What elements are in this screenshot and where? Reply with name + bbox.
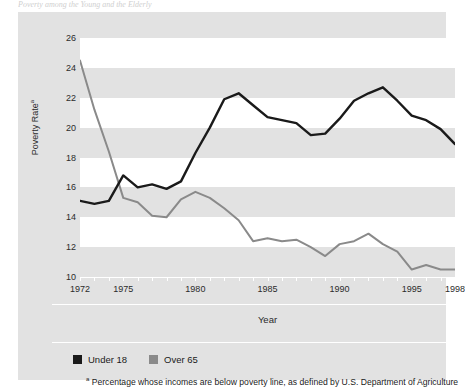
line-over-65 (80, 60, 455, 269)
chart-panel: 101214161820222426 Poverty Ratea 1972197… (18, 12, 446, 380)
series-lines (80, 38, 455, 277)
x-tick (152, 278, 153, 281)
x-tick (138, 278, 139, 281)
x-tick (224, 278, 225, 281)
plot-area (80, 38, 455, 277)
x-tick-label: 1998 (445, 284, 465, 294)
y-tick-label: 20 (54, 124, 76, 133)
x-tick (311, 278, 312, 281)
legend-swatch-gray (149, 355, 158, 364)
x-tick (383, 278, 384, 281)
x-tick (455, 278, 456, 281)
divider-lower (52, 342, 452, 343)
chart-legend: Under 18Over 65 (73, 353, 220, 365)
legend-label: Under 18 (88, 354, 127, 365)
x-tick (80, 278, 81, 281)
x-tick (167, 278, 168, 281)
y-axis-tick-labels: 101214161820222426 (48, 38, 76, 277)
y-tick-label: 18 (54, 154, 76, 163)
x-tick (441, 278, 442, 281)
y-tick-label: 12 (54, 243, 76, 252)
y-tick-label: 26 (54, 34, 76, 43)
y-tick-label: 14 (54, 213, 76, 222)
x-tick-label: 1995 (402, 284, 422, 294)
legend-swatch-dark (73, 355, 82, 364)
x-tick (282, 278, 283, 281)
x-tick (340, 278, 341, 281)
x-tick (296, 278, 297, 281)
footnote: a Percentage whose incomes are below pov… (86, 374, 456, 388)
x-tick (195, 278, 196, 281)
legend-item: Under 18 (73, 354, 127, 365)
x-tick-label: 1985 (257, 284, 277, 294)
x-tick (426, 278, 427, 281)
x-tick (210, 278, 211, 281)
x-tick-label: 1980 (185, 284, 205, 294)
x-tick-label: 1972 (70, 284, 90, 294)
x-tick (94, 278, 95, 281)
x-tick (325, 278, 326, 281)
y-tick-label: 10 (54, 273, 76, 282)
x-tick (268, 278, 269, 281)
figure-caption-cropped: Poverty among the Young and the Elderly (18, 0, 318, 10)
x-tick (368, 278, 369, 281)
y-axis-title: Poverty Ratea (29, 88, 40, 168)
legend-item: Over 65 (149, 354, 198, 365)
x-tick (253, 278, 254, 281)
x-tick-label: 1990 (330, 284, 350, 294)
y-tick-label: 22 (54, 94, 76, 103)
x-tick (181, 278, 182, 281)
footnote-text: Percentage whose incomes are below pover… (89, 377, 458, 387)
x-tick (412, 278, 413, 281)
x-tick (397, 278, 398, 281)
x-tick (239, 278, 240, 281)
divider-upper (52, 304, 452, 305)
y-tick-label: 16 (54, 183, 76, 192)
x-tick (354, 278, 355, 281)
x-axis-title: Year (80, 314, 455, 325)
y-tick-label: 24 (54, 64, 76, 73)
y-axis-title-text: Poverty Rate (30, 103, 40, 155)
x-tick-label: 1975 (113, 284, 133, 294)
x-tick (109, 278, 110, 281)
legend-label: Over 65 (164, 354, 198, 365)
line-under-18 (80, 87, 455, 204)
x-tick (123, 278, 124, 281)
y-axis-title-superscript: a (29, 100, 35, 103)
